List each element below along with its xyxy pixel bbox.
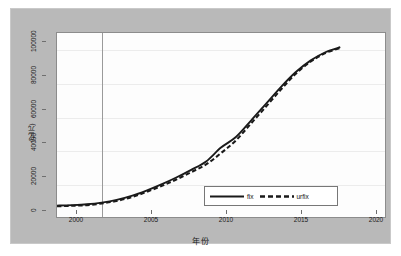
legend-label-fix: fix: [247, 193, 254, 200]
y-tick-label: 0: [30, 193, 40, 227]
x-tick-mark: [76, 210, 77, 214]
y-tick-mark: [42, 75, 46, 76]
chart-figure: (亿元) 020000400006000080000100000 2000200…: [0, 0, 401, 256]
y-tick-mark: [42, 142, 46, 143]
y-tick-label: 20000: [30, 159, 40, 193]
y-tick-label: 100000: [30, 24, 40, 58]
y-tick-mark: [42, 176, 46, 177]
x-tick-label: 2015: [286, 216, 316, 223]
x-axis-title: 年份: [11, 235, 390, 246]
y-tick-mark: [42, 41, 46, 42]
x-tick-mark: [376, 210, 377, 214]
legend-label-urfix: urfix: [297, 193, 309, 200]
x-tick-label: 2020: [361, 216, 391, 223]
x-tick-mark: [151, 210, 152, 214]
x-tick-label: 2000: [61, 216, 91, 223]
legend-item-urfix: urfix: [260, 193, 309, 200]
solid-line-swatch: [210, 193, 244, 200]
x-tick-label: 2010: [211, 216, 241, 223]
y-tick-label: 40000: [30, 125, 40, 159]
x-tick-mark: [226, 210, 227, 214]
dashed-line-swatch: [260, 193, 294, 200]
chart-legend: fix urfix: [204, 186, 338, 206]
series-line-fix: [57, 47, 340, 205]
y-tick-label: 80000: [30, 58, 40, 92]
x-tick-label: 2005: [136, 216, 166, 223]
y-tick-mark: [42, 210, 46, 211]
series-line-urfix: [57, 48, 340, 206]
chart-canvas: (亿元) 020000400006000080000100000 2000200…: [10, 8, 391, 244]
y-tick-label: 60000: [30, 92, 40, 126]
x-tick-mark: [301, 210, 302, 214]
y-tick-mark: [42, 109, 46, 110]
legend-item-fix: fix: [210, 193, 254, 200]
